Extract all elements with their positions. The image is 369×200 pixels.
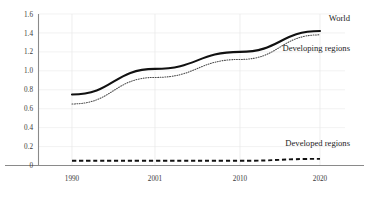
y-axis-tick-label: 1.6 (24, 11, 33, 19)
y-axis-tick-label: 0.6 (24, 105, 33, 113)
y-axis-tick-labels: 00.20.40.60.81.01.21.41.6 (24, 11, 33, 171)
series-line-developed-regions (72, 159, 320, 161)
line-chart: 00.20.40.60.81.01.21.41.6 19902001201020… (0, 0, 369, 200)
x-axis-tick-label: 1990 (65, 175, 80, 183)
chart-plot-area: 00.20.40.60.81.01.21.41.6 19902001201020… (0, 0, 369, 200)
y-axis-tick-label: 1.2 (24, 48, 33, 56)
x-axis-tick-label: 2020 (313, 175, 328, 183)
x-axis-tick-label: 2001 (148, 175, 163, 183)
x-axis-tick-labels: 1990200120102020 (65, 175, 328, 183)
y-axis-tick-label: 0.4 (24, 124, 33, 132)
series-label-world: World (329, 13, 351, 23)
y-axis-tick-label: 1.4 (24, 30, 33, 38)
y-axis-tick-label: 0 (29, 162, 33, 170)
y-axis-tick-label: 1.0 (24, 67, 33, 75)
series-label-developed-regions: Developed regions (285, 138, 350, 148)
x-axis-tick-label: 2010 (233, 175, 248, 183)
y-axis-tick-label: 0.2 (24, 143, 33, 151)
y-axis-tick-label: 0.8 (24, 86, 33, 94)
series-line-world (72, 31, 320, 94)
series-label-developing-regions: Developing regions (282, 43, 350, 53)
